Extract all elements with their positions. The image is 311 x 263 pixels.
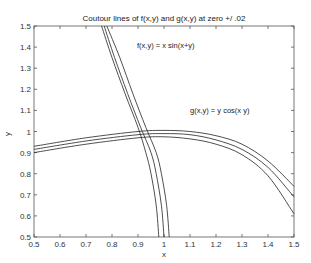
x-tick-label: 0.7 bbox=[80, 240, 92, 249]
y-tick-label: 1.2 bbox=[20, 85, 32, 94]
y-tick-label: 0.8 bbox=[20, 170, 32, 179]
y-tick-label: 0.5 bbox=[20, 233, 32, 242]
contour-chart: Coutour lines of f(x,y) and g(x,y) at ze… bbox=[0, 0, 311, 263]
x-tick-label: 1.5 bbox=[288, 240, 300, 249]
x-tick-label: 1.4 bbox=[262, 240, 274, 249]
plot-area bbox=[34, 26, 294, 237]
y-tick-label: 0.7 bbox=[20, 191, 32, 200]
chart-title: Coutour lines of f(x,y) and g(x,y) at ze… bbox=[83, 14, 247, 23]
x-tick-label: 0.8 bbox=[106, 240, 118, 249]
y-tick-label: 1.3 bbox=[20, 64, 32, 73]
y-tick-label: 0.9 bbox=[20, 149, 32, 158]
g-equation-annotation: g(x,y) = y cos(x y) bbox=[190, 106, 250, 115]
y-tick-label: 0.6 bbox=[20, 212, 32, 221]
y-axis-label: y bbox=[3, 132, 12, 136]
y-tick-label: 1 bbox=[27, 128, 32, 137]
y-tick-label: 1.5 bbox=[20, 22, 32, 31]
f-equation-annotation: f(x,y) = x sin(x+y) bbox=[137, 41, 195, 50]
y-tick-label: 1.4 bbox=[20, 43, 32, 52]
x-axis-label: x bbox=[162, 250, 166, 259]
x-tick-label: 0.9 bbox=[132, 240, 144, 249]
x-tick-label: 1.3 bbox=[236, 240, 248, 249]
x-tick-label: 1.1 bbox=[184, 240, 196, 249]
x-tick-label: 0.6 bbox=[54, 240, 66, 249]
x-tick-label: 1 bbox=[162, 240, 167, 249]
x-tick-label: 1.2 bbox=[210, 240, 222, 249]
y-tick-label: 1.1 bbox=[20, 106, 32, 115]
